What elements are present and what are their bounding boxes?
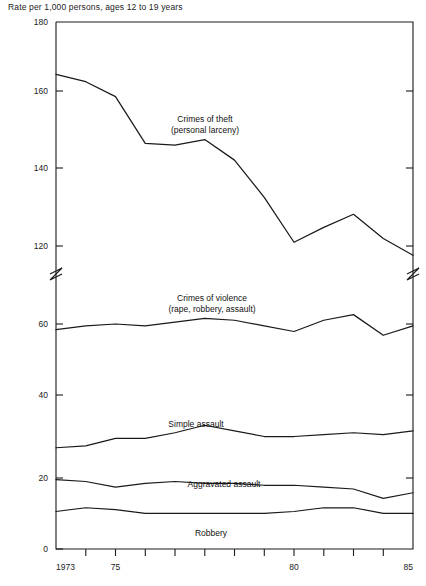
x-axis-ticks — [86, 549, 384, 556]
label-aggravated-assault: Aggravated assault — [188, 479, 261, 489]
y-tick-40: 40 — [39, 390, 49, 400]
x-tick-1973: 1973 — [56, 562, 75, 572]
plot-frame — [56, 22, 413, 549]
x-tick-85: 85 — [404, 562, 414, 572]
y-tick-0: 0 — [43, 544, 48, 554]
chart-container: Rate per 1,000 persons, ages 12 to 19 ye… — [0, 0, 426, 586]
label-theft-line2: (personal larceny) — [171, 125, 239, 135]
line-crimes-of-theft — [56, 74, 413, 255]
label-simple-assault: Simple assault — [168, 419, 224, 429]
x-tick-75: 75 — [111, 562, 121, 572]
y-tick-180: 180 — [34, 17, 48, 27]
y-axis-ticks-right — [406, 91, 413, 478]
y-tick-60: 60 — [39, 319, 49, 329]
line-robbery — [56, 508, 413, 514]
label-robbery: Robbery — [195, 528, 228, 538]
chart-svg: 180 160 140 120 60 40 20 0 1973 75 80 85 — [0, 0, 426, 586]
label-violence-line2: (rape, robbery, assault) — [168, 304, 255, 314]
y-tick-140: 140 — [34, 163, 48, 173]
label-theft-line1: Crimes of theft — [177, 114, 233, 124]
y-tick-20: 20 — [39, 473, 49, 483]
x-tick-80: 80 — [289, 562, 299, 572]
line-crimes-of-violence — [56, 315, 413, 336]
y-tick-120: 120 — [34, 241, 48, 251]
label-violence-line1: Crimes of violence — [177, 293, 247, 303]
line-simple-assault — [56, 425, 413, 448]
y-tick-160: 160 — [34, 86, 48, 96]
